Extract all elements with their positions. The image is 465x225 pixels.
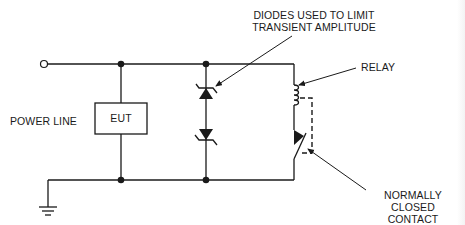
- relay-coil-icon: [294, 85, 299, 130]
- contact-label-line-1: NORMALLY CLOSED: [363, 189, 463, 213]
- contact-label: NORMALLY CLOSED CONTACT: [363, 189, 463, 225]
- junction-dot: [203, 177, 210, 184]
- contact-label-line-2: CONTACT: [363, 213, 463, 225]
- junction-dot: [203, 61, 210, 68]
- power-line-label: POWER LINE: [10, 115, 77, 127]
- junction-dot: [118, 177, 125, 184]
- diodes-label: DIODES USED TO LIMIT TRANSIENT AMPLITUDE: [234, 9, 394, 33]
- contact-pointer-arrow: [308, 149, 366, 190]
- page-edge-shadow: [457, 0, 465, 225]
- diodes-pointer-arrow: [216, 36, 292, 86]
- mechanical-linkage: [300, 98, 312, 153]
- open-terminal-icon: [41, 61, 48, 68]
- ground-icon: [39, 207, 57, 215]
- diodes-label-line-2: TRANSIENT AMPLITUDE: [234, 21, 394, 33]
- eut-label: EUT: [95, 112, 147, 124]
- diodes-label-line-1: DIODES USED TO LIMIT: [234, 9, 394, 21]
- relay-label: RELAY: [361, 61, 395, 73]
- junction-dot: [118, 61, 125, 68]
- relay-pointer-arrow: [299, 68, 356, 85]
- normally-closed-contact-icon: [294, 130, 306, 180]
